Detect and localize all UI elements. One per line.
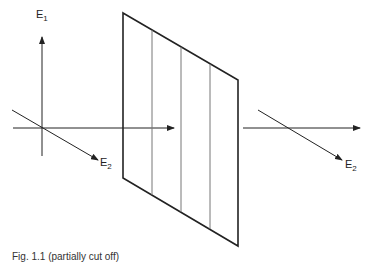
incident-field-axes: E1 E2 — [12, 8, 112, 171]
polarizer-panel — [123, 13, 238, 246]
e2-axis-arrow-right — [258, 110, 342, 160]
e2-label-left: E2 — [100, 156, 112, 171]
figure-caption: Fig. 1.1 (partially cut off) — [12, 251, 119, 262]
e2-axis-arrow — [12, 110, 98, 160]
e2-label-right: E2 — [345, 158, 357, 173]
e1-label: E1 — [36, 8, 48, 23]
transmitted-field-axes: E2 — [243, 110, 360, 173]
